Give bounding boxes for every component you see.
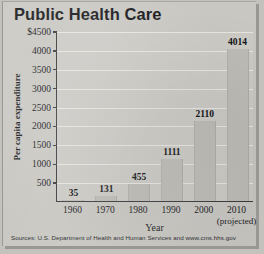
source-note: Sources: U.S. Department of Health and H…: [11, 234, 236, 241]
y-axis-tick-label: 2000: [32, 121, 51, 131]
y-axis-tick: [53, 126, 57, 127]
y-axis-tick-label: 500: [37, 178, 51, 188]
bar: 2110: [194, 121, 216, 201]
y-axis-tick: [53, 164, 57, 165]
y-axis-tick-label: 2500: [32, 103, 51, 113]
x-axis-tick-label: 1970: [96, 205, 115, 215]
y-axis-tick-label: 3500: [32, 65, 51, 75]
x-axis-tick-year: 2000: [194, 205, 213, 215]
x-axis-tick-year: 1980: [129, 205, 148, 215]
y-axis-tick-label: 1500: [32, 140, 51, 150]
x-axis-tick-label: 1990: [161, 205, 180, 215]
gridline: [57, 108, 253, 109]
bar-value-label: 2110: [196, 109, 214, 119]
gridline: [57, 70, 253, 71]
y-axis-tick: [53, 69, 57, 70]
chart-title: Public Health Care: [14, 5, 162, 24]
y-axis-tick-label: 4000: [32, 46, 51, 56]
x-axis-tick-year: 1970: [96, 205, 115, 215]
y-axis-tick: [53, 107, 57, 108]
x-axis-tick-label: 2010(projected): [217, 205, 256, 226]
x-axis-tick-sublabel: (projected): [217, 216, 256, 226]
bar-value-label: 4014: [228, 37, 247, 47]
x-axis-tick-year: 1990: [161, 205, 180, 215]
y-axis-tick: [53, 31, 57, 32]
plot-area: 5001000150020002500300035004000$45003513…: [56, 32, 253, 202]
y-axis-tick: [53, 88, 57, 89]
y-axis-title: Per capita expenditure: [12, 67, 22, 167]
y-axis-tick-label: 3000: [32, 84, 51, 94]
x-axis-tick-year: 1960: [63, 205, 82, 215]
bar: 4014: [227, 49, 249, 201]
bar-value-label: 131: [99, 184, 113, 194]
bar: 455: [128, 184, 150, 201]
y-axis-tick: [53, 182, 57, 183]
bar: 131: [95, 196, 117, 201]
bar: 1111: [161, 159, 183, 201]
y-axis-tick-label: $4500: [27, 27, 51, 37]
gridline: [57, 89, 253, 90]
bar: 35: [62, 200, 84, 201]
x-axis-tick-year: 2010: [227, 205, 246, 215]
gridline: [57, 126, 253, 127]
gridline: [57, 145, 253, 146]
gridline: [57, 183, 253, 184]
x-axis-tick-label: 1980: [129, 205, 148, 215]
x-axis-tick-label: 2000: [194, 205, 213, 215]
bar-value-label: 35: [69, 188, 79, 198]
gridline: [57, 51, 253, 52]
chart-screenshot: Public Health Care Per capita expenditur…: [0, 0, 264, 254]
bar-value-label: 1111: [163, 147, 180, 157]
y-axis-tick-label: 1000: [32, 159, 51, 169]
bar-value-label: 455: [132, 172, 146, 182]
gridline: [57, 164, 253, 165]
y-axis-tick: [53, 50, 57, 51]
chart-panel: Public Health Care Per capita expenditur…: [2, 1, 256, 246]
gridline: [57, 32, 253, 33]
y-axis-tick: [53, 145, 57, 146]
x-axis-tick-label: 1960: [63, 205, 82, 215]
